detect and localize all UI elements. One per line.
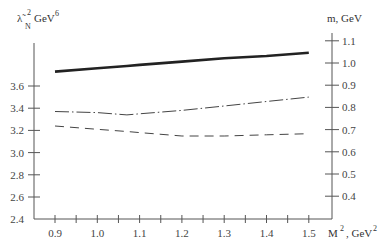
y-left-tick-label: 3.4 [10, 102, 24, 114]
y-left-tick-label: 2.4 [10, 213, 24, 225]
y-left-title-sup: 2 [27, 8, 31, 17]
x-tick-label: 1.5 [302, 227, 316, 239]
y-right-tick-label: 0.5 [342, 168, 356, 180]
y-left-title-sub: N [25, 22, 31, 31]
y-left-tick-label: 3.0 [10, 147, 24, 159]
y-right-tick-label: 1.1 [342, 35, 356, 47]
x-title: M [328, 227, 338, 239]
y-left-ticks: 2.42.62.83.03.23.43.6 [10, 80, 40, 225]
x-tick-label: 1.2 [175, 227, 189, 239]
y-left-tick-label: 3.2 [10, 124, 24, 136]
series-solid [55, 53, 309, 72]
series-dashdot [55, 97, 309, 115]
x-tick-label: 1.3 [217, 227, 231, 239]
chart: 0.91.01.11.21.31.41.5 2.42.62.83.03.23.4… [0, 0, 380, 246]
x-tick-label: 0.9 [48, 227, 62, 239]
y-right-tick-label: 0.9 [342, 79, 356, 91]
y-left-title-unit: GeV [34, 12, 55, 24]
y-left-tick-label: 2.6 [10, 191, 24, 203]
y-right-title: m, GeV [327, 12, 362, 24]
y-right-tick-label: 0.8 [342, 101, 356, 113]
x-title-unit-sup: 2 [373, 224, 377, 233]
y-right-tick-label: 1.0 [342, 57, 356, 69]
y-left-title-unit-sup: 6 [55, 9, 59, 18]
x-tick-label: 1.1 [133, 227, 147, 239]
y-left-tick-label: 2.8 [10, 169, 24, 181]
series-lines [55, 53, 309, 136]
x-tick-label: 1.0 [90, 227, 104, 239]
y-left-tick-label: 3.6 [10, 80, 24, 92]
y-right-tick-label: 0.4 [342, 190, 356, 202]
y-right-tick-label: 0.7 [342, 124, 356, 136]
series-dashed [55, 126, 309, 136]
x-title-sup: 2 [340, 224, 344, 233]
y-right-ticks: 0.40.50.60.70.80.91.01.1 [325, 35, 356, 202]
y-right-tick-label: 0.6 [342, 146, 356, 158]
x-title-unit: , GeV [346, 227, 372, 239]
x-tick-label: 1.4 [260, 227, 274, 239]
